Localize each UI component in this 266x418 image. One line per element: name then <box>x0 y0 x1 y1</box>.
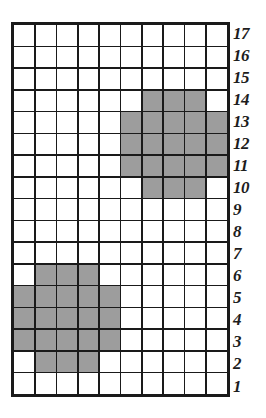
grid-cell-empty <box>36 69 56 89</box>
grid-cell-empty <box>185 25 205 45</box>
grid-cell-empty <box>14 373 34 393</box>
grid-cell-empty <box>36 373 56 393</box>
row-label: 9 <box>232 199 266 221</box>
grid-cell-shaded <box>164 91 184 111</box>
grid-cell-empty <box>185 308 205 328</box>
grid-cell-empty <box>185 221 205 241</box>
grid-cell-empty <box>36 25 56 45</box>
row-label: 10 <box>232 176 266 198</box>
row-label: 15 <box>232 66 266 88</box>
grid-cell-empty <box>14 156 34 176</box>
row-label: 8 <box>232 221 266 243</box>
grid-cell-shaded <box>57 330 77 350</box>
grid-cell-shaded <box>57 265 77 285</box>
row-label: 11 <box>232 154 266 176</box>
grid-cell-empty <box>185 373 205 393</box>
grid-cell-empty <box>36 47 56 67</box>
grid-cell-empty <box>79 134 99 154</box>
grid-cell-empty <box>185 330 205 350</box>
grid-cell-empty <box>143 199 163 219</box>
grid-cell-empty <box>36 134 56 154</box>
grid-cell-shaded <box>121 134 141 154</box>
grid-cell-empty <box>79 69 99 89</box>
grid-cell-shaded <box>121 156 141 176</box>
grid-cell-shaded <box>185 134 205 154</box>
grid-cell-empty <box>100 156 120 176</box>
grid-cell-empty <box>79 91 99 111</box>
grid-cell-empty <box>121 265 141 285</box>
grid-cell-shaded <box>36 308 56 328</box>
grid-cell-empty <box>143 352 163 372</box>
grid-cell-empty <box>14 69 34 89</box>
grid-cell-empty <box>36 112 56 132</box>
grid-cell-shaded <box>164 134 184 154</box>
row-label: 17 <box>232 22 266 44</box>
grid-cell-empty <box>14 47 34 67</box>
grid-cell-shaded <box>143 156 163 176</box>
grid-cell-empty <box>121 243 141 263</box>
grid-cell-empty <box>79 373 99 393</box>
grid-cell-shaded <box>164 112 184 132</box>
row-label: 14 <box>232 88 266 110</box>
grid-cell-empty <box>100 265 120 285</box>
grid-cell-empty <box>121 308 141 328</box>
grid-cell-empty <box>207 330 227 350</box>
grid-cell-empty <box>14 243 34 263</box>
grid-cell-empty <box>164 373 184 393</box>
row-label: 1 <box>232 375 266 397</box>
grid-cell-empty <box>79 25 99 45</box>
grid-cell-empty <box>100 112 120 132</box>
grid-cell-empty <box>143 373 163 393</box>
grid-cell-empty <box>100 373 120 393</box>
grid-cell-empty <box>14 178 34 198</box>
grid-cell-empty <box>207 47 227 67</box>
grid-cell-shaded <box>143 91 163 111</box>
grid-cell-empty <box>36 156 56 176</box>
grid-cell-empty <box>121 199 141 219</box>
grid-cell-empty <box>57 47 77 67</box>
grid-cell-empty <box>164 199 184 219</box>
grid-cell-empty <box>14 265 34 285</box>
grid-cell-empty <box>79 199 99 219</box>
grid-cell-empty <box>185 69 205 89</box>
grid-cell-empty <box>100 352 120 372</box>
grid-cell-empty <box>36 91 56 111</box>
grid-cell-empty <box>100 178 120 198</box>
grid-cell-empty <box>185 47 205 67</box>
grid-cell-empty <box>14 134 34 154</box>
grid-cell-empty <box>207 91 227 111</box>
grid-cell-empty <box>79 47 99 67</box>
row-label: 12 <box>232 132 266 154</box>
grid-cell-empty <box>121 221 141 241</box>
grid-cell-empty <box>207 286 227 306</box>
grid-cell-shaded <box>185 178 205 198</box>
grid-cell-empty <box>207 352 227 372</box>
grid-cell-empty <box>143 25 163 45</box>
grid-cell-empty <box>100 221 120 241</box>
grid-cell-empty <box>79 178 99 198</box>
cell-grid <box>11 22 230 397</box>
grid-cell-empty <box>164 47 184 67</box>
grid-cell-shaded <box>57 308 77 328</box>
grid-cell-empty <box>100 91 120 111</box>
grid-cell-shaded <box>79 308 99 328</box>
grid-cell-shaded <box>36 352 56 372</box>
grid-cell-shaded <box>207 134 227 154</box>
grid-cell-empty <box>207 308 227 328</box>
row-label-column: 1716151413121110987654321 <box>232 22 266 397</box>
grid-cell-empty <box>36 178 56 198</box>
grid-cell-shaded <box>57 286 77 306</box>
grid-container <box>11 22 230 397</box>
grid-cell-shaded <box>36 330 56 350</box>
grid-cell-shaded <box>79 286 99 306</box>
grid-cell-empty <box>207 243 227 263</box>
grid-cell-empty <box>14 199 34 219</box>
grid-cell-empty <box>164 69 184 89</box>
grid-cell-empty <box>36 199 56 219</box>
grid-cell-empty <box>57 134 77 154</box>
grid-cell-empty <box>79 243 99 263</box>
row-label: 16 <box>232 44 266 66</box>
grid-cell-empty <box>36 221 56 241</box>
grid-cell-shaded <box>100 308 120 328</box>
grid-cell-empty <box>57 178 77 198</box>
